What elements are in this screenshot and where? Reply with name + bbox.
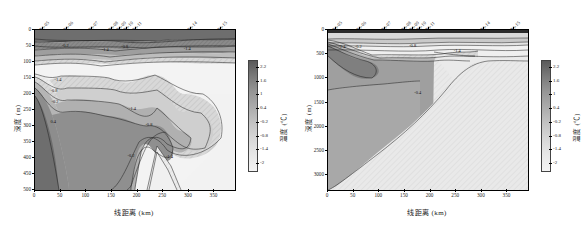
colorbar-tick-mark [256, 94, 259, 95]
plot-area-right: -1.4-0.2-0.8-1.4-0.4 [327, 29, 529, 191]
panel-right-full-depth: P3-05P3-06P3-07P3-08P3-09P3-10P3-11P3-14… [293, 0, 586, 230]
y-tick-mark [325, 126, 328, 127]
y-tick-mark [32, 109, 35, 110]
contour-label: -1.4 [184, 46, 191, 51]
contour-label: -1.4 [102, 47, 109, 52]
x-tick-label: 100 [369, 192, 387, 198]
x-tick-label: 50 [51, 192, 69, 198]
y-tick-label: 1000 [303, 74, 324, 80]
x-axis-label-right: 线距离 (km) [367, 207, 487, 217]
panel-left-upper-500m: P3-05P3-06P3-07P3-08P3-09P3-10P3-11P3-14… [0, 0, 293, 230]
colorbar-tick-label: 0.4 [553, 105, 559, 110]
plot-area-left: -0.2-1.4-0.8-1.4-1.4-0.8-0.20.4-1.4-0.8-… [34, 29, 236, 191]
x-tick-mark [60, 189, 61, 192]
contour-label: -0.2 [52, 99, 59, 104]
contour-label: -0.4 [414, 90, 421, 95]
y-tick-label: 150 [10, 74, 31, 80]
colorbar-tick-label: 2.2 [260, 64, 266, 69]
y-tick-label: 500 [303, 50, 324, 56]
contour-label: -0.8 [121, 44, 128, 49]
colorbar-tick-mark [256, 81, 259, 82]
y-tick-mark [32, 93, 35, 94]
y-tick-mark [325, 29, 328, 30]
x-tick-label: 200 [128, 192, 146, 198]
y-tick-label: 100 [10, 58, 31, 64]
y-tick-mark [32, 125, 35, 126]
contour-label: -0.8 [51, 88, 58, 93]
x-tick-label: 0 [318, 192, 336, 198]
y-tick-mark [32, 157, 35, 158]
x-tick-label: 150 [395, 192, 413, 198]
colorbar-tick-label: 2.2 [553, 64, 559, 69]
colorbar-tick-label: -0.8 [553, 133, 561, 138]
y-tick-mark [325, 53, 328, 54]
colorbar-tick-mark [256, 67, 259, 68]
contour-fill-right [328, 30, 528, 190]
y-tick-mark [32, 77, 35, 78]
x-tick-mark [404, 189, 405, 192]
colorbar-tick-label: -0.2 [553, 119, 561, 124]
colorbar-label-right: 温度 (℃) [571, 113, 581, 142]
x-tick-label: 0 [25, 192, 43, 198]
y-tick-mark [32, 141, 35, 142]
x-tick-mark [353, 189, 354, 192]
colorbar-tick-mark [549, 81, 552, 82]
contour-label: -1.4 [55, 77, 62, 82]
colorbar-tick-mark [256, 149, 259, 150]
x-tick-mark [430, 189, 431, 192]
contour-label: -1.4 [129, 106, 136, 111]
y-tick-label: 450 [10, 170, 31, 176]
y-tick-label: 2500 [303, 147, 324, 153]
contour-label: -1.4 [454, 48, 461, 53]
x-tick-label: 200 [421, 192, 439, 198]
y-tick-label: 400 [10, 154, 31, 160]
x-tick-label: 250 [446, 192, 464, 198]
x-tick-label: 150 [102, 192, 120, 198]
colorbar-label-left: 温度 (℃) [278, 113, 288, 142]
colorbar-tick-mark [549, 67, 552, 68]
x-tick-label: 250 [153, 192, 171, 198]
y-tick-label: 50 [10, 42, 31, 48]
x-tick-mark [481, 189, 482, 192]
contour-label: -0.2 [127, 153, 134, 158]
colorbar-tick-label: -0.2 [260, 119, 268, 124]
contour-label: 0.4 [51, 119, 57, 124]
contour-label: -0.8 [409, 43, 416, 48]
colorbar-tick-mark [256, 108, 259, 109]
colorbar-tick-label: 1.6 [260, 78, 266, 83]
colorbar-tick-label: 1 [553, 91, 556, 96]
y-tick-mark [325, 174, 328, 175]
contour-label: -1.4 [338, 44, 345, 49]
y-tick-label: 350 [10, 138, 31, 144]
x-tick-mark [213, 189, 214, 192]
x-tick-mark [85, 189, 86, 192]
colorbar-tick-mark [256, 122, 259, 123]
colorbar-tick-mark [256, 136, 259, 137]
contour-label: -0.8 [145, 122, 152, 127]
colorbar-tick-label: 0.4 [260, 105, 266, 110]
colorbar-tick-label: 1 [260, 91, 263, 96]
x-tick-label: 50 [344, 192, 362, 198]
colorbar-right [541, 60, 551, 172]
x-axis-label-left: 线距离 (km) [74, 207, 194, 217]
colorbar-tick-label: -0.8 [260, 133, 268, 138]
contour-label: -0.2 [62, 43, 69, 48]
colorbar-tick-label: -1.4 [553, 146, 561, 151]
x-tick-mark [137, 189, 138, 192]
y-tick-mark [325, 102, 328, 103]
x-tick-label: 300 [179, 192, 197, 198]
contour-label: -0.2 [355, 44, 362, 49]
colorbar-tick-mark [256, 163, 259, 164]
x-tick-label: 300 [472, 192, 490, 198]
y-tick-mark [325, 77, 328, 78]
y-tick-mark [32, 45, 35, 46]
x-tick-mark [162, 189, 163, 192]
contour-label: -1.4 [166, 154, 173, 159]
colorbar-tick-label: -2 [553, 160, 557, 165]
y-axis-label-left: 深度 (m) [12, 105, 22, 132]
colorbar-left [248, 60, 258, 172]
y-tick-label: 0 [10, 26, 31, 32]
x-tick-mark [188, 189, 189, 192]
y-tick-label: 3000 [303, 171, 324, 177]
colorbar-tick-mark [549, 163, 552, 164]
